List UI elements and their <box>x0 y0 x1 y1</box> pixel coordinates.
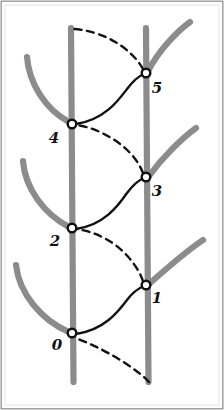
branch-curve-above-right-node-3 <box>149 128 196 176</box>
branch-curve-above-left-node-2 <box>23 161 69 227</box>
node-label-0: 0 <box>52 336 63 354</box>
node-5[interactable] <box>142 69 151 78</box>
node-4[interactable] <box>68 120 77 129</box>
segment-5-to-end <box>73 29 143 69</box>
segment-1-to-2 <box>77 229 143 281</box>
vertical-lines-group <box>71 28 149 382</box>
segment-4-to-5 <box>76 74 144 124</box>
node-label-3: 3 <box>152 182 162 200</box>
diagram-canvas: 012345 <box>0 0 224 410</box>
branch-curve-above-left-node-0 <box>16 265 69 332</box>
segment-start-to-0 <box>78 339 149 382</box>
right-vertical-line <box>146 28 149 382</box>
branch-curve-above-right-node-1 <box>149 240 203 284</box>
node-3[interactable] <box>142 173 151 182</box>
segment-3-to-4 <box>77 125 143 173</box>
figure-frame: 012345 <box>0 0 224 410</box>
node-label-1: 1 <box>152 289 162 307</box>
path-segments-group <box>73 29 149 382</box>
frame-border-rect <box>1 1 223 409</box>
node-0[interactable] <box>68 329 77 338</box>
branch-curve-above-left-node-4 <box>27 57 69 122</box>
node-label-4: 4 <box>49 129 59 147</box>
node-label-5: 5 <box>152 79 162 97</box>
frame-inner-rect <box>5 5 219 405</box>
segment-0-to-1 <box>76 286 144 334</box>
frame-border <box>1 1 223 409</box>
node-2[interactable] <box>68 224 77 233</box>
segment-2-to-3 <box>76 178 144 229</box>
branch-curves-group <box>16 22 203 332</box>
branch-curve-above-right-node-5 <box>148 22 190 71</box>
node-1[interactable] <box>142 281 151 290</box>
node-label-2: 2 <box>49 232 60 250</box>
